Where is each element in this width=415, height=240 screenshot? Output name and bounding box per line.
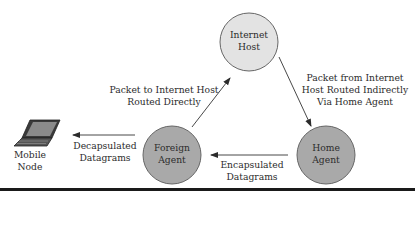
home-agent-label-line2: Agent	[296, 154, 356, 166]
laptop-icon	[14, 120, 60, 146]
internet-host-label-line1: Internet	[219, 29, 279, 41]
edge-label-line1: Decapsulated	[72, 140, 138, 152]
foreign-agent-label-line2: Agent	[142, 154, 202, 166]
internet-host-label-line2: Host	[219, 41, 279, 53]
edge-label-line1: Packet from Internet	[295, 72, 415, 84]
home-agent-label: Home Agent	[296, 142, 356, 166]
foreign-agent-label-line1: Foreign	[142, 142, 202, 154]
edge-label-line1: Encapsulated	[216, 159, 288, 171]
internet-host-label: Internet Host	[219, 29, 279, 53]
edge-label-foreign-to-mobile-node: Decapsulated Datagrams	[72, 140, 138, 164]
edge-label-line1: Packet to Internet Host	[104, 84, 224, 96]
edge-label-internet-host-to-home-agent: Packet from Internet Host Routed Indirec…	[295, 72, 415, 108]
edge-label-line2: Host Routed Indirectly	[295, 84, 415, 96]
edge-label-home-to-foreign-agent: Encapsulated Datagrams	[216, 159, 288, 183]
edge-label-line2: Routed Directly	[104, 96, 224, 108]
edge-label-line2: Datagrams	[72, 152, 138, 164]
mobile-node-label-line1: Mobile	[8, 149, 52, 161]
mobile-node-label: Mobile Node	[8, 149, 52, 173]
foreign-agent-label: Foreign Agent	[142, 142, 202, 166]
edge-label-foreign-to-internet-host: Packet to Internet Host Routed Directly	[104, 84, 224, 108]
home-agent-label-line1: Home	[296, 142, 356, 154]
bottom-rule	[0, 188, 415, 191]
edge-label-line3: Via Home Agent	[295, 96, 415, 108]
edge-label-line2: Datagrams	[216, 171, 288, 183]
mobile-node-label-line2: Node	[8, 161, 52, 173]
